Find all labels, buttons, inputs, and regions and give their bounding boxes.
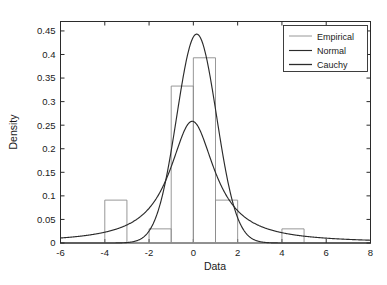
x-tick-label: 2 <box>235 247 240 258</box>
chart-figure: -6-4-202468 00.050.10.150.20.250.30.350.… <box>0 0 387 285</box>
x-tick-label: -6 <box>56 247 64 258</box>
x-tick-label: -4 <box>101 247 109 258</box>
y-tick-label: 0.25 <box>37 120 56 131</box>
x-tick-label: 0 <box>191 247 196 258</box>
y-tick-label: 0.35 <box>37 72 56 83</box>
y-axis-title: Density <box>7 114 19 150</box>
y-tick-label: 0.1 <box>42 190 55 201</box>
x-axis-title: Data <box>204 260 226 272</box>
legend-label-normal: Normal <box>317 46 346 56</box>
x-tick-label: 8 <box>368 247 373 258</box>
density-histogram-chart: -6-4-202468 00.050.10.150.20.250.30.350.… <box>0 0 387 285</box>
x-tick-label: 6 <box>324 247 329 258</box>
legend-label-cauchy: Cauchy <box>317 60 348 70</box>
y-tick-label: 0.45 <box>37 25 56 36</box>
y-tick-label: 0.05 <box>37 214 56 225</box>
chart-legend[interactable]: Empirical Normal Cauchy <box>284 26 368 72</box>
x-tick-label: 4 <box>279 247 284 258</box>
y-tick-label: 0.2 <box>42 143 55 154</box>
y-tick-label: 0.4 <box>42 49 55 60</box>
y-tick-label: 0.15 <box>37 167 56 178</box>
y-tick-label: 0 <box>50 237 55 248</box>
x-tick-label: -2 <box>145 247 153 258</box>
y-tick-label: 0.3 <box>42 96 55 107</box>
legend-label-empirical: Empirical <box>317 32 354 42</box>
